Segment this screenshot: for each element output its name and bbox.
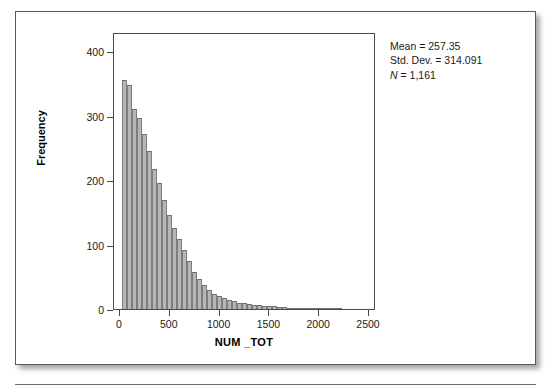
x-axis-tick-label: 2500 bbox=[343, 318, 393, 330]
stat-stddev: Std. Dev. = 314.091 bbox=[390, 53, 482, 67]
x-axis-tick bbox=[318, 310, 319, 316]
x-axis-tick-label: 2000 bbox=[293, 318, 343, 330]
x-axis-tick bbox=[368, 310, 369, 316]
histogram-bars bbox=[114, 34, 374, 309]
plot-frame bbox=[113, 33, 375, 310]
y-axis-tick-label: 100 bbox=[44, 241, 104, 252]
stat-n-symbol: N bbox=[390, 69, 398, 81]
x-axis-title: NUM _TOT bbox=[113, 336, 375, 348]
x-axis-tick-label: 0 bbox=[94, 318, 144, 330]
histogram-chart: Frequency 0100200300400 0500100015002000… bbox=[16, 12, 537, 366]
x-axis-tick bbox=[219, 310, 220, 316]
x-axis-tick bbox=[268, 310, 269, 316]
y-axis-tick-label: 200 bbox=[44, 176, 104, 187]
x-axis-tick-label: 1000 bbox=[194, 318, 244, 330]
x-axis-tick bbox=[169, 310, 170, 316]
y-axis-tick bbox=[107, 310, 113, 311]
y-axis-tick-label: 400 bbox=[44, 47, 104, 58]
stat-n: N = 1,161 bbox=[390, 68, 482, 82]
statistics-annotation: Mean = 257.35 Std. Dev. = 314.091 N = 1,… bbox=[390, 39, 482, 82]
x-axis-tick-label: 1500 bbox=[243, 318, 293, 330]
y-axis-tick-label: 0 bbox=[44, 305, 104, 316]
x-axis-tick bbox=[119, 310, 120, 316]
y-axis-labels: 0100200300400 bbox=[38, 12, 104, 366]
stat-mean: Mean = 257.35 bbox=[390, 39, 482, 53]
histogram-bar bbox=[337, 308, 342, 309]
page-divider-rule bbox=[15, 384, 536, 385]
y-axis-tick-label: 300 bbox=[44, 112, 104, 123]
figure-card: Frequency 0100200300400 0500100015002000… bbox=[15, 11, 536, 365]
stat-n-value: = 1,161 bbox=[398, 69, 436, 81]
x-axis-tick-label: 500 bbox=[144, 318, 194, 330]
